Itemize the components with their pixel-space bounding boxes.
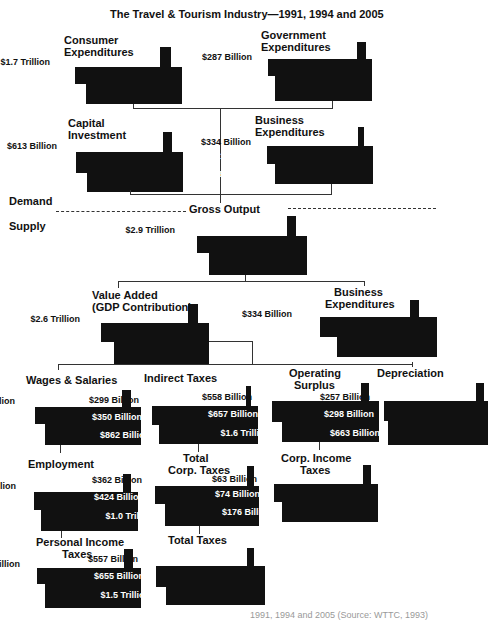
value-1994: $693 Billion: [12, 158, 62, 168]
value-2005: $348 Million: [0, 515, 32, 525]
demand-label: Demand: [9, 195, 52, 207]
value-2005: $176 Billion: [222, 507, 272, 517]
value-1991: $2.6 Trillion: [30, 314, 80, 324]
value-added-label: Value Added (GDP Contribution): [92, 289, 192, 313]
value-2005: $826 Billion: [214, 87, 264, 97]
value-1991: $558 Billion: [202, 392, 252, 402]
value-1991: $257 Billion: [320, 392, 370, 402]
total-corp-taxes-label: Total Corp. Taxes: [168, 452, 230, 476]
value-1994: $231 Billion: [0, 573, 24, 583]
value-2005: $1.5 Trillion: [100, 590, 150, 600]
value-1991: $557 Billion: [88, 554, 138, 564]
value-1991: $299 Billion: [89, 395, 139, 405]
value-1991: $63 Billion: [212, 474, 257, 484]
gross-output-label: Gross Output: [189, 203, 260, 215]
operating-surplus-label: Operating Surplus: [289, 367, 341, 391]
capital-label: Capital Investment: [68, 117, 126, 141]
diagram-title: The Travel & Tourism Industry—1991, 1994…: [110, 8, 384, 20]
value-1994: $424 Billion: [94, 492, 144, 502]
supply-label: Supply: [9, 220, 46, 232]
value-1994: $655 Billion: [94, 571, 144, 581]
value-2005: $663 Billion: [330, 428, 380, 438]
value-2005: $4.0 Trillion: [0, 430, 32, 440]
business-demand-label: Business Expenditures: [255, 114, 325, 138]
value-2005: $1.7 Trillion: [22, 177, 72, 187]
value-1994: $401 Billion: [205, 151, 255, 161]
value-1991: $1.5 Trillion: [0, 396, 15, 406]
value-1991: 183 Million: [0, 481, 16, 491]
value-1991: $334 Billion: [201, 137, 251, 147]
value-1991: $613 Billion: [7, 141, 57, 151]
wages-label: Wages & Salaries: [26, 374, 117, 386]
value-1994: $3.4 Trillion: [133, 242, 183, 252]
value-1994: $3.0 Trillion: [39, 330, 89, 340]
value-1994: $74 Billion: [215, 489, 260, 499]
value-1994: $352 Billion: [206, 70, 256, 80]
value-1994: $204 Million: [0, 497, 22, 507]
consumer-label: Consumer Expenditures: [64, 34, 134, 58]
employment-label: Employment: [28, 458, 94, 470]
figure-caption: 1991, 1994 and 2005 (Source: WTTC, 1993): [250, 610, 428, 620]
value-1994: $2.0 Trillion: [13, 74, 63, 84]
value-1994: $1.7 Trillion: [0, 412, 23, 422]
value-2005: $1.6 Trillion: [220, 428, 270, 438]
value-2005: $818 Billion: [267, 342, 317, 352]
value-2005: $4.6 Trillion: [23, 91, 73, 101]
value-2005: $540 Billion: [0, 593, 35, 603]
business-supply-label: Business Expenditures: [325, 286, 395, 310]
value-1994: $401 Billion: [252, 325, 302, 335]
value-2005: $7.1 Trillion: [48, 349, 98, 359]
value-1994: $657 Billion: [208, 409, 258, 419]
value-2005: $7.9 Trillion: [144, 260, 194, 270]
value-1994: $298 Billion: [324, 409, 374, 419]
value-1991: $195 Billion: [0, 559, 20, 569]
value-1994: $350 Billion: [92, 412, 142, 422]
value-1991: $334 Billion: [242, 309, 292, 319]
value-1991: $2.9 Trillion: [125, 225, 175, 235]
indirect-taxes-label: Indirect Taxes: [144, 372, 217, 384]
depreciation-label: Depreciation: [377, 367, 444, 379]
value-1991: $1.7 Trillion: [0, 57, 50, 67]
value-2005: $1.0 Trillion: [105, 511, 155, 521]
government-label: Government Expenditures: [261, 29, 331, 53]
value-2005: $862 Billion: [100, 430, 150, 440]
value-1991: $287 Billion: [202, 52, 252, 62]
total-taxes-label: Total Taxes: [168, 534, 227, 546]
corp-income-taxes-label: Corp. Income Taxes: [281, 452, 351, 476]
value-2005: $818 Billion: [214, 169, 264, 179]
value-1991: $362 Billion: [92, 475, 142, 485]
